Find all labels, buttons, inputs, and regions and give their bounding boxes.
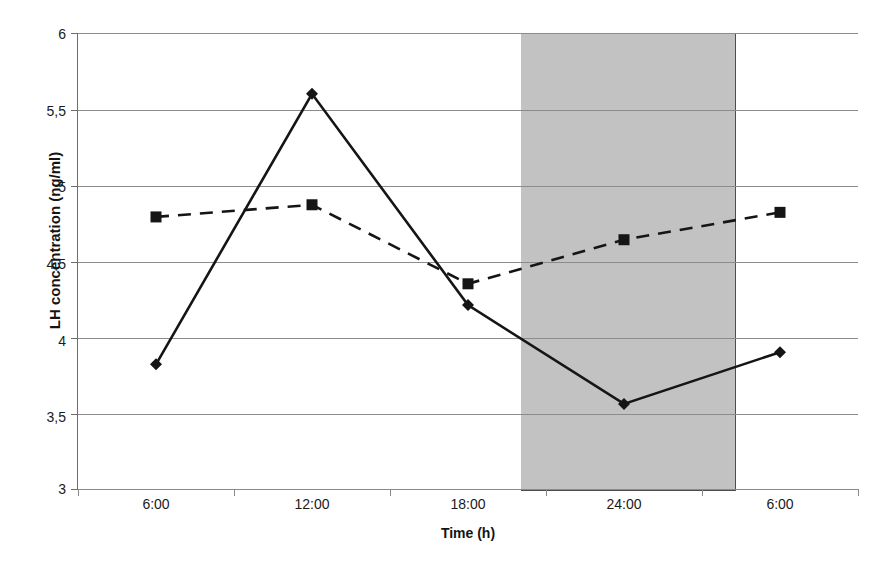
y-axis-line xyxy=(77,33,78,490)
y-tick-label-4-5: 4,5 xyxy=(10,256,66,272)
gridline-5-5 xyxy=(78,110,858,111)
x-tick-label-12-00: 12:00 xyxy=(252,496,372,512)
x-tick-mark-2 xyxy=(390,489,391,496)
chart-container: LH concentration (ng/ml) 6 5,5 5 4,5 4 3… xyxy=(0,0,882,562)
y-tick-label-4: 4 xyxy=(10,333,66,349)
x-tick-label-6-00-am: 6:00 xyxy=(96,496,216,512)
y-tick-label-3: 3 xyxy=(10,481,66,497)
x-tick-mark-5 xyxy=(858,489,859,496)
x-tick-mark-3 xyxy=(546,489,547,496)
gridline-3-5 xyxy=(78,414,858,415)
gridline-4 xyxy=(78,338,858,339)
gridline-5 xyxy=(78,186,858,187)
data-point-square-4 xyxy=(775,207,786,218)
y-tick-label-3-5: 3,5 xyxy=(10,409,66,425)
y-tick-label-6: 6 xyxy=(10,26,66,42)
gridline-6 xyxy=(78,33,858,34)
data-point-square-2 xyxy=(463,278,474,289)
gridline-4-5 xyxy=(78,262,858,263)
data-point-diamond-4 xyxy=(774,346,786,358)
data-point-diamond-2 xyxy=(462,299,474,311)
y-tick-label-5: 5 xyxy=(10,179,66,195)
x-tick-label-6-00-next: 6:00 xyxy=(720,496,840,512)
data-point-diamond-1 xyxy=(306,88,318,100)
x-tick-label-18-00: 18:00 xyxy=(408,496,528,512)
x-axis-line xyxy=(78,489,859,490)
data-series-layer xyxy=(0,0,882,562)
x-axis-title: Time (h) xyxy=(78,525,858,541)
x-tick-mark-0 xyxy=(78,489,79,496)
y-tick-label-5-5: 5,5 xyxy=(10,103,66,119)
data-point-diamond-0 xyxy=(150,358,162,370)
data-point-square-1 xyxy=(307,199,318,210)
x-tick-mark-1 xyxy=(234,489,235,496)
data-point-square-0 xyxy=(151,211,162,222)
x-tick-label-24-00: 24:00 xyxy=(564,496,684,512)
x-tick-mark-4 xyxy=(702,489,703,496)
